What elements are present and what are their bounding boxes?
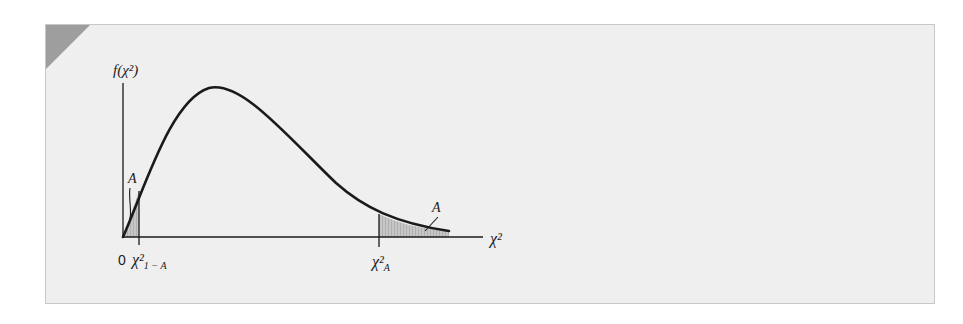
- upper-critical-label: χ²A: [370, 253, 391, 273]
- lower-critical-label: χ²1 − A: [130, 251, 168, 271]
- upper-tail-region: [379, 214, 449, 237]
- x-axis-label: χ²: [488, 230, 503, 248]
- upper-tail-area-label: A: [431, 200, 441, 215]
- origin-label: 0: [118, 252, 126, 268]
- chi-squared-density-figure: f(χ²) χ² 0 χ²1 − A χ²A A A: [46, 25, 935, 304]
- figure-panel: f(χ²) χ² 0 χ²1 − A χ²A A A: [45, 24, 935, 304]
- lower-tail-area-label: A: [127, 171, 137, 186]
- density-curve: [123, 87, 449, 237]
- y-axis-label: f(χ²): [113, 62, 138, 79]
